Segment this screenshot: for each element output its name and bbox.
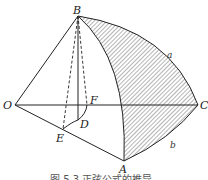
label-O: O [3,99,12,112]
label-C: C [200,99,208,112]
label-E: E [55,132,64,145]
arc-ED [63,120,78,129]
line-OB [15,16,78,105]
line-OA [15,105,124,161]
label-F: F [89,94,98,107]
figure-caption: 图 5.3 正弦公式的推导 [50,171,180,180]
label-arc-a: a [167,50,172,60]
label-B: B [72,4,81,17]
spherical-triangle-diagram: B O C A E D F a b [0,0,208,180]
hatched-region [78,16,198,161]
line-BE-dashed [63,16,78,129]
label-D: D [79,118,89,131]
line-BF-dashed [78,16,87,105]
label-arc-b: b [170,140,176,150]
